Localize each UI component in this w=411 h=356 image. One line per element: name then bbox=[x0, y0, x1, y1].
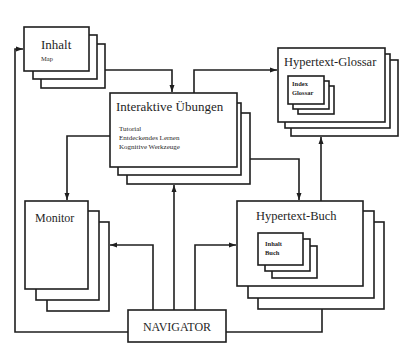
uebungen-item-kognitive-werkzeuge: Kognitive Werkzeuge bbox=[119, 143, 180, 151]
buch-inner-buch: Buch bbox=[265, 249, 280, 256]
uebungen-title: Interaktive Übungen bbox=[116, 99, 224, 114]
node-inhalt[interactable]: Inhalt Map bbox=[24, 27, 105, 88]
buch-inner-stack: Inhalt Buch bbox=[258, 233, 317, 278]
glossar-inner-index: Index bbox=[292, 80, 309, 87]
node-monitor[interactable]: Monitor bbox=[25, 201, 109, 311]
node-navigator[interactable]: NAVIGATOR bbox=[128, 310, 226, 342]
navigator-title: NAVIGATOR bbox=[143, 320, 211, 334]
edge-uebungen-glossar bbox=[194, 70, 277, 93]
monitor-title: Monitor bbox=[35, 211, 74, 225]
glossar-title: Hypertext-Glossar bbox=[284, 55, 377, 69]
buch-inner-inhalt: Inhalt bbox=[265, 240, 283, 247]
inhalt-title: Inhalt bbox=[41, 37, 72, 52]
edge-inhalt-uebungen bbox=[105, 70, 172, 92]
uebungen-item-entdeckendes-lernen: Entdeckendes Lernen bbox=[119, 134, 180, 142]
edge-uebungen-buch bbox=[250, 159, 299, 200]
glossar-inner-stack: Index Glossar bbox=[288, 76, 334, 114]
edge-navigator-buch bbox=[195, 245, 236, 310]
node-buch[interactable]: Hypertext-Buch Inhalt Buch bbox=[237, 201, 384, 309]
uebungen-item-tutorial: Tutorial bbox=[119, 125, 141, 133]
edge-uebungen-monitor bbox=[67, 136, 110, 200]
buch-title: Hypertext-Buch bbox=[256, 209, 337, 223]
edge-buch-navigator bbox=[226, 309, 322, 332]
edge-navigator-monitor bbox=[110, 245, 153, 310]
node-uebungen[interactable]: Interaktive Übungen Tutorial Entdeckende… bbox=[110, 93, 250, 184]
glossar-inner-glossar: Glossar bbox=[292, 89, 313, 96]
node-glossar[interactable]: Hypertext-Glossar Index Glossar bbox=[278, 48, 398, 136]
diagram-canvas: Inhalt Map Interaktive Übungen Tutorial … bbox=[0, 0, 411, 356]
inhalt-subtitle: Map bbox=[41, 55, 53, 62]
